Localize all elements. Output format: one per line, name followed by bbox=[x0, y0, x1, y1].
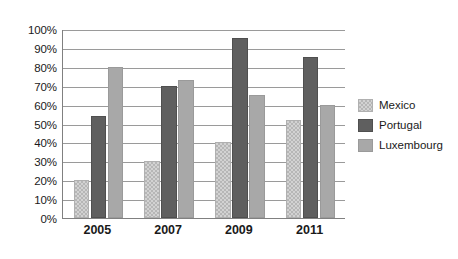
y-axis-labels: 0%10%20%30%40%50%60%70%80%90%100% bbox=[0, 30, 57, 219]
y-axis-tick-label: 20% bbox=[34, 175, 57, 187]
bar-mexico-2009 bbox=[215, 142, 231, 218]
plot-area bbox=[62, 30, 345, 219]
bar-groups bbox=[63, 30, 345, 218]
x-axis-tick-label: 2009 bbox=[225, 223, 253, 237]
bar-portugal-2007 bbox=[161, 86, 177, 218]
bar-portugal-2005 bbox=[91, 116, 107, 218]
bar-portugal-2009 bbox=[232, 38, 248, 218]
y-axis-tick-label: 0% bbox=[41, 213, 57, 225]
y-axis-tick-label: 100% bbox=[28, 24, 57, 36]
legend-label: Portugal bbox=[379, 119, 422, 131]
y-axis-tick-label: 40% bbox=[34, 137, 57, 149]
bar-portugal-2011 bbox=[303, 57, 319, 218]
x-axis-tick-label: 2005 bbox=[83, 223, 111, 237]
x-axis-labels: 2005200720092011 bbox=[62, 223, 345, 243]
bar-mexico-2011 bbox=[286, 120, 302, 218]
x-axis-tick-label: 2007 bbox=[154, 223, 182, 237]
bar-luxembourg-2007 bbox=[178, 80, 194, 218]
legend-label: Mexico bbox=[379, 99, 415, 111]
y-axis-tick-label: 90% bbox=[34, 43, 57, 55]
bar-mexico-2007 bbox=[144, 161, 160, 218]
legend-item-portugal: Portugal bbox=[358, 116, 456, 134]
y-axis-tick-label: 80% bbox=[34, 62, 57, 74]
legend-item-mexico: Mexico bbox=[358, 96, 456, 114]
chart-legend: MexicoPortugalLuxembourg bbox=[358, 96, 456, 156]
bar-luxembourg-2009 bbox=[249, 95, 265, 218]
legend-swatch-mexico-icon bbox=[358, 99, 373, 112]
y-axis-tick-label: 70% bbox=[34, 81, 57, 93]
y-axis-tick-label: 30% bbox=[34, 156, 57, 168]
legend-swatch-luxembourg-icon bbox=[358, 139, 373, 152]
y-axis-tick-label: 50% bbox=[34, 119, 57, 131]
y-axis-tick-label: 10% bbox=[34, 194, 57, 206]
legend-item-luxembourg: Luxembourg bbox=[358, 136, 456, 154]
x-axis-tick-label: 2011 bbox=[296, 223, 323, 237]
bar-mexico-2005 bbox=[74, 180, 90, 218]
bar-luxembourg-2011 bbox=[320, 105, 336, 218]
bar-chart: 0%10%20%30%40%50%60%70%80%90%100% 200520… bbox=[0, 0, 458, 259]
legend-label: Luxembourg bbox=[379, 139, 443, 151]
legend-swatch-portugal-icon bbox=[358, 119, 373, 132]
y-axis-tick-label: 60% bbox=[34, 100, 57, 112]
bar-luxembourg-2005 bbox=[108, 67, 124, 218]
